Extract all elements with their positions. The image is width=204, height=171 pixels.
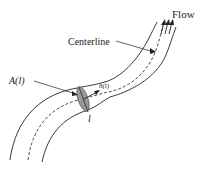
area-pointer xyxy=(34,81,76,94)
centerline-label: Centerline xyxy=(68,36,110,47)
flow-label: Flow xyxy=(172,8,195,20)
flow-arrows-icon xyxy=(161,19,174,34)
normal-arrow-head xyxy=(94,90,100,95)
area-label: A(l) xyxy=(9,75,25,86)
tube-flow-diagram: Flow Centerline A(l) n̂(l) l xyxy=(0,0,204,171)
centerline-pointer xyxy=(116,41,154,52)
tube-wall-lower xyxy=(42,27,176,162)
position-label: l xyxy=(88,113,91,124)
normal-label: n̂(l) xyxy=(99,82,109,90)
